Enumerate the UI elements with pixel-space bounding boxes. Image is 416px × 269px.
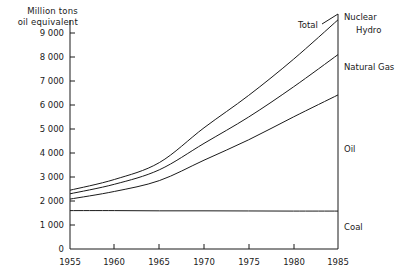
y-tick-label-6000: 6 000 (40, 100, 64, 110)
chart-canvas: Million tons oil equivalent 9 000 8 000 … (0, 0, 416, 269)
series-curve-oil (70, 95, 338, 199)
y-tick-label-1000: 1 000 (40, 220, 64, 230)
x-tick-label-1960: 1960 (103, 257, 125, 267)
x-tick-label-1965: 1965 (148, 257, 170, 267)
y-axis-title-line2: oil equivalent (18, 17, 79, 27)
x-tick-label-1980: 1980 (283, 257, 305, 267)
y-tick-label-5000: 5 000 (40, 124, 64, 134)
data-curves-group (70, 20, 338, 211)
y-axis-title-line1: Million tons (27, 6, 78, 16)
y-tick-label-7000: 7 000 (40, 76, 64, 86)
nuclear-label: Nuclear (344, 12, 377, 22)
series-curve-coal (70, 211, 338, 212)
total-curve-label: Total (297, 20, 318, 30)
x-tick-label-1975: 1975 (238, 257, 260, 267)
y-tick-label-3000: 3 000 (40, 172, 64, 182)
x-tick-marks (114, 244, 294, 249)
y-tick-label-8000: 8 000 (40, 52, 64, 62)
y-tick-label-2000: 2 000 (40, 196, 64, 206)
y-tick-label-4000: 4 000 (40, 148, 64, 158)
y-tick-marks (70, 33, 75, 225)
series-curve-natural-gas (70, 55, 338, 194)
y-tick-label-0: 0 (59, 244, 64, 254)
energy-projection-chart: Million tons oil equivalent 9 000 8 000 … (0, 0, 416, 269)
x-tick-label-1985: 1985 (327, 257, 349, 267)
x-tick-label-1955: 1955 (59, 257, 81, 267)
hydro-label: Hydro (356, 25, 381, 35)
x-tick-label-1970: 1970 (193, 257, 215, 267)
oil-label: Oil (344, 144, 355, 154)
natural-gas-label: Natural Gas (344, 62, 395, 72)
y-tick-label-9000: 9 000 (40, 28, 64, 38)
series-curve-total (70, 20, 338, 190)
coal-label: Coal (344, 222, 363, 232)
